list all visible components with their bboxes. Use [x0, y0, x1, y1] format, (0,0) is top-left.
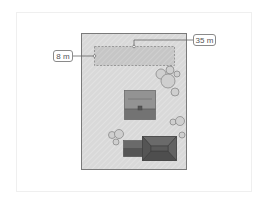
- width-anchor-icon: [93, 55, 96, 58]
- garage-building: [125, 91, 156, 120]
- length-dimension-label: 35 m: [193, 34, 216, 46]
- planned-area-strip: [95, 47, 175, 66]
- site-plan-svg: [0, 0, 265, 201]
- length-anchor-icon: [133, 45, 136, 48]
- garage-door-icon: [138, 106, 142, 110]
- width-dimension-label: 8 m: [53, 50, 73, 62]
- main-house-roof: [143, 137, 177, 161]
- house-annex: [124, 141, 144, 157]
